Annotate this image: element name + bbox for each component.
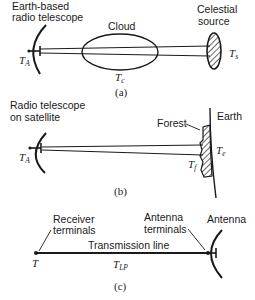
beam-line-lower bbox=[42, 150, 203, 155]
receiver-leader bbox=[39, 230, 51, 251]
beam-line-lower bbox=[40, 53, 210, 56]
telescope-label-a-line2: radio telescope bbox=[12, 11, 83, 23]
telescope-label-b-line1: Radio telescope bbox=[10, 99, 85, 111]
line-temp: TLP bbox=[113, 258, 128, 272]
terminal-dot-icon bbox=[28, 146, 31, 149]
caption-b: (b) bbox=[114, 185, 127, 198]
celestial-source-icon bbox=[207, 33, 221, 69]
antenna-temp-b: TA bbox=[19, 151, 30, 165]
beam-line-upper bbox=[40, 46, 210, 49]
panel-c: Receiver terminals Antenna terminals Ant… bbox=[32, 211, 246, 293]
terminal-dot-icon bbox=[27, 49, 30, 52]
receiver-terminal-icon bbox=[34, 251, 38, 255]
antenna-label: Antenna bbox=[207, 213, 246, 225]
receiver-temp: T bbox=[32, 257, 39, 269]
source-label-line2: source bbox=[198, 15, 230, 27]
forest-leader bbox=[186, 124, 200, 130]
cloud-ellipse bbox=[82, 34, 158, 70]
beam-line-upper bbox=[42, 145, 203, 147]
forest-label: Forest bbox=[157, 117, 187, 129]
panel-b: Radio telescope on satellite Earth Fores… bbox=[10, 99, 242, 198]
source-label-line1: Celestial bbox=[197, 3, 237, 15]
receiver-label-line2: terminals bbox=[53, 224, 96, 236]
transmission-line-label: Transmission line bbox=[88, 239, 169, 251]
source-temp: Ts bbox=[229, 47, 238, 61]
antenna-terminals-line2: terminals bbox=[144, 223, 187, 235]
cloud-temp: Tc bbox=[115, 71, 125, 85]
antenna-temp-a: TA bbox=[19, 54, 30, 68]
earth-label: Earth bbox=[217, 110, 242, 122]
telescope-label-b-line2: on satellite bbox=[10, 111, 60, 123]
panel-a: Earth-based radio telescope Cloud Celest… bbox=[12, 0, 238, 99]
earth-temp: Te bbox=[216, 144, 226, 158]
forest-icon bbox=[200, 125, 212, 177]
radio-telescope-diagram: Earth-based radio telescope Cloud Celest… bbox=[0, 0, 255, 300]
caption-c: (c) bbox=[114, 280, 127, 293]
forest-temp: Tf bbox=[188, 158, 197, 172]
cloud-label: Cloud bbox=[108, 20, 136, 32]
antenna-terminals-line1: Antenna bbox=[144, 211, 183, 223]
caption-a: (a) bbox=[115, 86, 128, 99]
antenna-terminals-leader bbox=[188, 229, 205, 250]
